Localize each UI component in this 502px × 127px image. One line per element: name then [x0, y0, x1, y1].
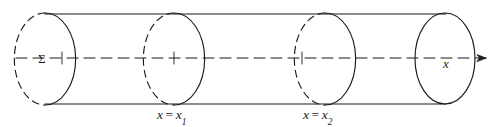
label-section-x2: x=x2 [303, 108, 332, 125]
label-section-x2-rhs: x [322, 107, 328, 122]
cylinder-cross-section-figure: Σ x x=x1 x=x2 [0, 0, 502, 127]
section-x2-back-arc [294, 13, 325, 105]
label-section-x1-subscript: 1 [182, 117, 187, 127]
label-section-x1-rhs: x [176, 107, 182, 122]
label-section-x2-equals: = [309, 107, 322, 122]
section-x2-front-arc [325, 13, 356, 105]
section-x1-back-arc [143, 13, 174, 105]
label-section-x1-equals: = [163, 107, 176, 122]
label-section-x2-subscript: 2 [328, 117, 333, 127]
section-x1-front-arc [174, 13, 205, 105]
figure-canvas [0, 0, 502, 127]
label-section-x1: x=x1 [157, 108, 186, 125]
label-sigma: Σ [38, 52, 46, 65]
sigma-cap-front-arc [45, 13, 76, 105]
label-axis-x: x [443, 57, 449, 70]
